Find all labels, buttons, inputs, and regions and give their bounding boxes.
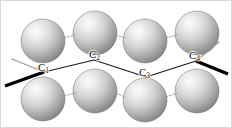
atom-label-c3: C3 xyxy=(139,67,150,80)
bond-c1-c2 xyxy=(44,60,94,72)
carbon-backbone xyxy=(44,60,196,77)
atom-label-c2: C2 xyxy=(89,49,100,62)
atom-subscript-c1: 1 xyxy=(45,66,49,75)
sphere-bottom-2 xyxy=(73,69,117,113)
sphere-top-3 xyxy=(123,19,167,63)
atom-label-c1: C1 xyxy=(38,62,49,75)
sphere-row-bottom xyxy=(21,69,219,122)
atom-subscript-c3: 3 xyxy=(146,71,150,80)
atom-label-c4: C4 xyxy=(189,50,200,63)
atom-subscript-c2: 2 xyxy=(96,53,100,62)
sphere-bottom-3 xyxy=(123,78,167,122)
sphere-bottom-1 xyxy=(21,77,65,121)
sphere-top-4 xyxy=(175,11,219,55)
sphere-bottom-4 xyxy=(175,69,219,113)
molecular-diagram xyxy=(0,0,232,128)
atom-subscript-c4: 4 xyxy=(196,54,200,63)
figure-root: C1 C2 C3 C4 xyxy=(0,0,232,128)
sphere-top-1 xyxy=(21,19,65,63)
